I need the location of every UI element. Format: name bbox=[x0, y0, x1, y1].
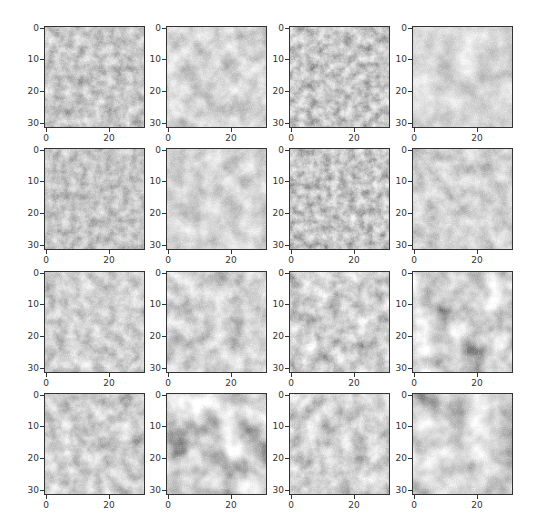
y-tick-label: 10 bbox=[273, 54, 284, 64]
y-tick-label: 20 bbox=[28, 86, 39, 96]
x-tick bbox=[109, 128, 110, 132]
y-tick-label: 0 bbox=[278, 268, 284, 278]
y-tick-label: 0 bbox=[401, 390, 407, 400]
y-tick-label: 20 bbox=[150, 331, 161, 341]
y-tick-label: 10 bbox=[150, 421, 161, 431]
x-tick bbox=[291, 495, 292, 499]
x-tick bbox=[168, 250, 169, 254]
y-tick-label: 10 bbox=[273, 176, 284, 186]
y-tick bbox=[40, 123, 44, 124]
x-tick-label: 0 bbox=[404, 133, 424, 143]
x-tick bbox=[168, 128, 169, 132]
y-tick-label: 30 bbox=[273, 363, 284, 373]
sample-image bbox=[44, 393, 145, 495]
y-tick-label: 30 bbox=[273, 118, 284, 128]
x-tick bbox=[291, 128, 292, 132]
y-tick bbox=[40, 368, 44, 369]
y-tick bbox=[285, 273, 289, 274]
x-tick-label: 20 bbox=[344, 255, 364, 265]
y-tick bbox=[162, 59, 166, 60]
y-tick-label: 20 bbox=[28, 208, 39, 218]
y-tick-label: 20 bbox=[396, 86, 407, 96]
y-tick bbox=[162, 368, 166, 369]
y-tick bbox=[285, 150, 289, 151]
subplot-3-0: 0102030020 bbox=[44, 393, 145, 495]
subplot-1-1: 0102030020 bbox=[166, 148, 267, 250]
y-tick bbox=[40, 304, 44, 305]
y-tick bbox=[40, 273, 44, 274]
x-tick bbox=[168, 495, 169, 499]
y-tick-label: 10 bbox=[150, 299, 161, 309]
y-tick bbox=[40, 59, 44, 60]
y-tick-label: 10 bbox=[396, 54, 407, 64]
y-tick-label: 20 bbox=[396, 453, 407, 463]
y-tick bbox=[162, 245, 166, 246]
y-tick-label: 30 bbox=[150, 240, 161, 250]
x-tick bbox=[46, 373, 47, 377]
y-tick bbox=[162, 150, 166, 151]
y-tick bbox=[285, 304, 289, 305]
x-tick-label: 0 bbox=[281, 378, 301, 388]
y-tick-label: 20 bbox=[150, 208, 161, 218]
x-tick bbox=[109, 250, 110, 254]
x-tick-label: 0 bbox=[404, 378, 424, 388]
sample-image bbox=[289, 393, 390, 495]
y-tick-label: 30 bbox=[273, 240, 284, 250]
y-tick bbox=[40, 213, 44, 214]
y-tick bbox=[285, 490, 289, 491]
y-tick bbox=[40, 245, 44, 246]
y-tick-label: 0 bbox=[33, 390, 39, 400]
y-tick bbox=[408, 59, 412, 60]
x-tick bbox=[231, 250, 232, 254]
y-tick-label: 10 bbox=[28, 299, 39, 309]
sample-image bbox=[289, 148, 390, 250]
x-tick-label: 0 bbox=[158, 500, 178, 510]
x-tick-label: 20 bbox=[344, 378, 364, 388]
y-tick-label: 30 bbox=[273, 485, 284, 495]
y-tick-label: 0 bbox=[155, 268, 161, 278]
y-tick bbox=[162, 395, 166, 396]
sample-image bbox=[289, 271, 390, 373]
y-tick-label: 20 bbox=[273, 331, 284, 341]
y-tick-label: 30 bbox=[396, 363, 407, 373]
y-tick bbox=[285, 123, 289, 124]
figure: 0102030020010203002001020300200102030020… bbox=[0, 0, 536, 532]
x-tick bbox=[354, 373, 355, 377]
y-tick-label: 10 bbox=[28, 421, 39, 431]
x-tick-label: 20 bbox=[344, 133, 364, 143]
y-tick bbox=[162, 426, 166, 427]
subplot-0-1: 0102030020 bbox=[166, 26, 267, 128]
y-tick bbox=[285, 395, 289, 396]
x-tick-label: 0 bbox=[36, 500, 56, 510]
x-tick bbox=[477, 373, 478, 377]
x-tick bbox=[168, 373, 169, 377]
y-tick-label: 0 bbox=[155, 145, 161, 155]
x-tick-label: 20 bbox=[344, 500, 364, 510]
x-tick-label: 0 bbox=[281, 255, 301, 265]
x-tick bbox=[477, 128, 478, 132]
y-tick-label: 20 bbox=[396, 208, 407, 218]
x-tick-label: 20 bbox=[221, 255, 241, 265]
x-tick bbox=[414, 495, 415, 499]
sample-image bbox=[412, 148, 513, 250]
y-tick-label: 20 bbox=[273, 86, 284, 96]
y-tick bbox=[162, 28, 166, 29]
y-tick-label: 30 bbox=[396, 118, 407, 128]
y-tick bbox=[408, 213, 412, 214]
subplot-1-2: 0102030020 bbox=[289, 148, 390, 250]
y-tick-label: 30 bbox=[396, 485, 407, 495]
subplot-0-0: 0102030020 bbox=[44, 26, 145, 128]
y-tick-label: 20 bbox=[273, 208, 284, 218]
y-tick bbox=[408, 91, 412, 92]
y-tick bbox=[285, 458, 289, 459]
x-tick bbox=[46, 128, 47, 132]
subplot-0-2: 0102030020 bbox=[289, 26, 390, 128]
sample-image bbox=[166, 271, 267, 373]
sample-image bbox=[166, 148, 267, 250]
x-tick-label: 0 bbox=[404, 500, 424, 510]
subplot-2-2: 0102030020 bbox=[289, 271, 390, 373]
y-tick-label: 0 bbox=[401, 145, 407, 155]
y-tick bbox=[408, 490, 412, 491]
y-tick bbox=[285, 336, 289, 337]
y-tick-label: 0 bbox=[278, 390, 284, 400]
